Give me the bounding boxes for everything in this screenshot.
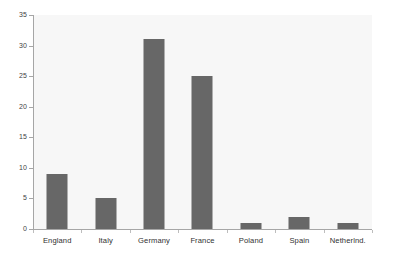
x-axis-label: Italy: [81, 236, 129, 246]
bar-slot: [178, 15, 226, 229]
y-tick-label: 15: [19, 132, 27, 141]
bar-france[interactable]: [192, 76, 213, 229]
bar-slot: [130, 15, 178, 229]
bar-england[interactable]: [47, 174, 68, 229]
x-tick-mark: [227, 230, 228, 233]
y-tick-label: 35: [19, 10, 27, 19]
bar-poland[interactable]: [240, 223, 261, 229]
y-tick-label: 0: [23, 224, 27, 233]
x-axis-label: France: [178, 236, 226, 246]
x-tick-mark: [372, 230, 373, 233]
bar-italy[interactable]: [95, 198, 116, 229]
x-tick-mark: [275, 230, 276, 233]
x-axis-label: Spain: [275, 236, 323, 246]
bar-slot: [33, 15, 81, 229]
bar-slot: [227, 15, 275, 229]
bar-netherlnd[interactable]: [337, 223, 358, 229]
x-axis-label: Netherlnd.: [324, 236, 372, 246]
y-tick-label: 20: [19, 102, 27, 111]
bar-slot: [324, 15, 372, 229]
y-tick-label: 25: [19, 71, 27, 80]
y-tick-label: 30: [19, 41, 27, 50]
y-tick-label: 5: [23, 193, 27, 202]
bar-slot: [275, 15, 323, 229]
x-tick-mark: [81, 230, 82, 233]
y-tick-label: 10: [19, 163, 27, 172]
bar-slot: [81, 15, 129, 229]
x-axis-label: Germany: [130, 236, 178, 246]
x-axis-label: Poland: [227, 236, 275, 246]
x-tick-mark: [130, 230, 131, 233]
x-axis-line: [33, 229, 372, 230]
bar-chart: 05101520253035 EnglandItalyGermanyFrance…: [0, 0, 400, 265]
x-tick-mark: [178, 230, 179, 233]
x-tick-mark: [33, 230, 34, 233]
bar-spain[interactable]: [289, 217, 310, 229]
x-axis-label: England: [33, 236, 81, 246]
bar-germany[interactable]: [144, 39, 165, 229]
x-tick-mark: [324, 230, 325, 233]
